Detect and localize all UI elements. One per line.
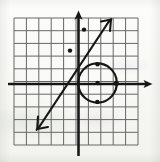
coordinate-graph	[0, 0, 160, 162]
point-circle-center	[95, 81, 99, 85]
scanned-graph-image	[0, 0, 160, 162]
line-shaft	[40, 22, 109, 127]
grid-lines	[14, 18, 138, 145]
point-circle-top	[95, 62, 99, 66]
line-curve	[37, 19, 112, 130]
point-circle-bottom	[95, 100, 99, 104]
point-line-lower	[68, 48, 72, 52]
axes	[8, 11, 153, 157]
marked-points	[68, 27, 119, 104]
point-line-upper	[82, 27, 86, 31]
point-circle-right	[114, 81, 119, 86]
